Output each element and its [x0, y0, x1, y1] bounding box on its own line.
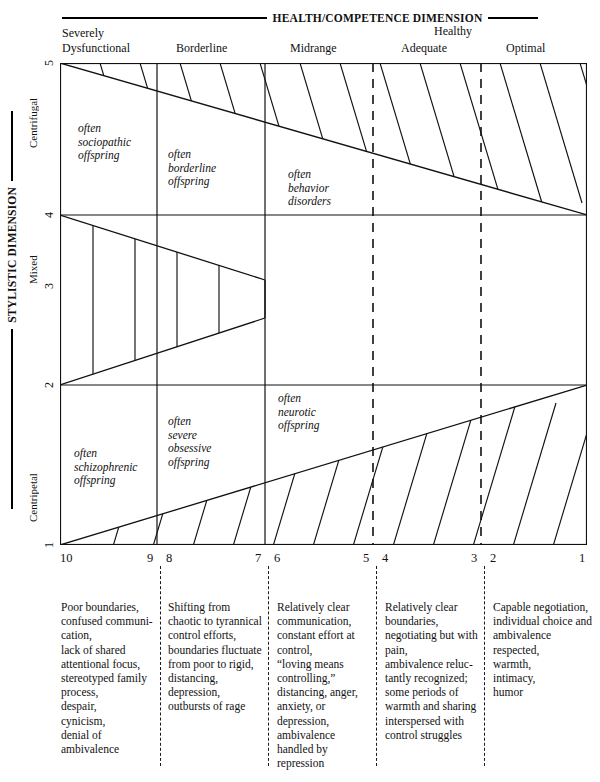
caption-sociopathic: often sociopathic offspring [78, 122, 131, 163]
x-tick-1: 1 [579, 551, 585, 566]
y-tick-1: 1 [42, 538, 56, 552]
colhead-midrange: Midrange [290, 41, 337, 56]
x-tick-7: 7 [255, 551, 261, 566]
colhead-severely: Severely [62, 26, 104, 41]
description-severely-dysfunctional: Poor boundaries, confused communi- catio… [61, 600, 157, 756]
lower-wedge [60, 385, 587, 545]
x-tick-4: 4 [382, 551, 388, 566]
colhead-dysfunctional: Dysfunctional [62, 41, 130, 56]
x-tick-9: 9 [147, 551, 153, 566]
colhead-healthy: Healthy [434, 24, 472, 39]
x-tick-5: 5 [363, 551, 369, 566]
band-label-centripetal: Centripetal [24, 450, 42, 545]
y-tick-5: 5 [42, 56, 56, 70]
band-label-mixed: Mixed [24, 240, 42, 300]
y-tick-2: 2 [42, 378, 56, 392]
x-tick-6: 6 [274, 551, 280, 566]
x-tick-10: 10 [60, 551, 73, 566]
description-midrange: Relatively clear communication, constant… [277, 600, 377, 770]
colhead-adequate: Adequate [401, 41, 447, 56]
colhead-borderline: Borderline [176, 41, 227, 56]
left-title-bar: STYLISTIC DIMENSION [0, 60, 25, 560]
page-title: HEALTH/COMPETENCE DIMENSION [267, 12, 489, 24]
description-optimal: Capable negotiation, individual choice a… [493, 600, 597, 699]
bottom-separator-2 [268, 566, 269, 766]
x-tick-2: 2 [490, 551, 496, 566]
band-label-centrifugal: Centrifugal [24, 70, 42, 175]
plot-svg [60, 63, 587, 545]
bottom-separator-1 [160, 566, 161, 766]
y-tick-3: 3 [42, 279, 56, 293]
plot-frame [61, 64, 587, 545]
caption-schizophrenic: often schizophrenic offspring [74, 447, 137, 488]
x-tick-3: 3 [471, 551, 477, 566]
x-tick-8: 8 [166, 551, 172, 566]
y-tick-4: 4 [42, 208, 56, 222]
caption-borderline-offspring: often borderline offspring [168, 148, 216, 189]
top-title-rule-left [62, 17, 267, 19]
top-title-rule-right [488, 17, 538, 19]
description-adequate: Relatively clear boundaries, negotiating… [385, 600, 485, 742]
plot-area [60, 63, 587, 545]
middle-wedge [60, 203, 265, 398]
left-title-rule-top [11, 111, 13, 181]
caption-neurotic: often neurotic offspring [278, 392, 320, 433]
caption-behavior-disorders: often behavior disorders [288, 168, 331, 209]
caption-severe-obsessive: often severe obsessive offspring [168, 415, 211, 469]
colhead-optimal: Optimal [506, 41, 545, 56]
axis-title-stylistic: STYLISTIC DIMENSION [6, 181, 18, 329]
description-borderline: Shifting from chaotic to tyrannical cont… [168, 600, 268, 714]
left-title-rule-bottom [11, 329, 13, 509]
top-title-bar: HEALTH/COMPETENCE DIMENSION [0, 8, 600, 28]
diagram-root: HEALTH/COMPETENCE DIMENSION STYLISTIC DI… [0, 0, 600, 782]
